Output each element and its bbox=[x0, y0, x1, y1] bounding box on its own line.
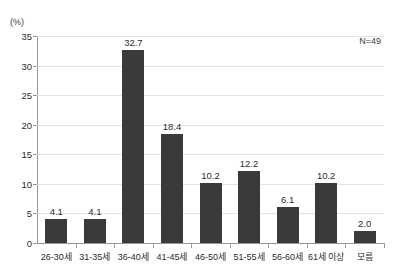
gridline bbox=[37, 243, 384, 244]
x-tick-mark bbox=[76, 244, 77, 248]
x-tick-mark bbox=[230, 244, 231, 248]
bar-value-label: 32.7 bbox=[111, 37, 155, 48]
y-tick-label: 30 bbox=[21, 60, 32, 71]
bar[interactable] bbox=[238, 171, 260, 243]
bar[interactable] bbox=[84, 219, 106, 243]
y-tick-mark bbox=[33, 184, 37, 185]
bar-value-label: 4.1 bbox=[34, 206, 78, 217]
y-tick-mark bbox=[33, 36, 37, 37]
bar[interactable] bbox=[354, 231, 376, 243]
y-tick-label: 10 bbox=[21, 178, 32, 189]
y-tick-mark bbox=[33, 213, 37, 214]
bar-chart: (%) N=49 05101520253035 4.14.132.718.410… bbox=[0, 0, 405, 279]
x-tick-mark bbox=[191, 244, 192, 248]
y-tick-mark bbox=[33, 243, 37, 244]
gridline bbox=[37, 36, 384, 37]
bar-value-label: 4.1 bbox=[73, 206, 117, 217]
gridline bbox=[37, 95, 384, 96]
y-tick-mark bbox=[33, 66, 37, 67]
gridline bbox=[37, 66, 384, 67]
y-tick-label: 35 bbox=[21, 31, 32, 42]
y-tick-mark bbox=[33, 95, 37, 96]
x-tick-mark bbox=[307, 244, 308, 248]
y-tick-label: 0 bbox=[27, 238, 32, 249]
x-tick-mark bbox=[345, 244, 346, 248]
bar-value-label: 18.4 bbox=[150, 121, 194, 132]
bar[interactable] bbox=[277, 207, 299, 243]
y-tick-mark bbox=[33, 154, 37, 155]
bar-value-label: 12.2 bbox=[227, 158, 271, 169]
bar[interactable] bbox=[161, 134, 183, 243]
bar-value-label: 6.1 bbox=[266, 194, 310, 205]
x-tick-mark bbox=[114, 244, 115, 248]
bar-value-label: 10.2 bbox=[304, 170, 348, 181]
x-tick-mark bbox=[384, 244, 385, 248]
y-tick-label: 20 bbox=[21, 119, 32, 130]
y-tick-label: 15 bbox=[21, 149, 32, 160]
bar-value-label: 2.0 bbox=[343, 218, 387, 229]
bar[interactable] bbox=[45, 219, 67, 243]
x-tick-mark bbox=[153, 244, 154, 248]
y-tick-label: 25 bbox=[21, 90, 32, 101]
gridline bbox=[37, 154, 384, 155]
bar[interactable] bbox=[200, 183, 222, 243]
gridline bbox=[37, 125, 384, 126]
y-tick-label: 5 bbox=[27, 208, 32, 219]
bar[interactable] bbox=[122, 50, 144, 243]
y-axis-unit-label: (%) bbox=[10, 17, 24, 27]
y-axis-tick-labels: 05101520253035 bbox=[0, 36, 32, 243]
x-tick-mark bbox=[268, 244, 269, 248]
bar[interactable] bbox=[315, 183, 337, 243]
x-category-label: 모름 bbox=[341, 250, 389, 263]
y-tick-mark bbox=[33, 125, 37, 126]
bar-value-label: 10.2 bbox=[189, 170, 233, 181]
